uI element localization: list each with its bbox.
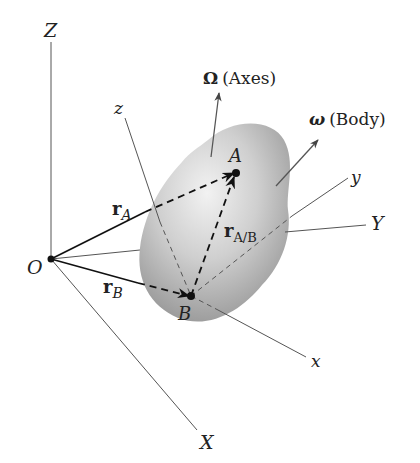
- origin-point: [48, 256, 55, 263]
- y-axis-outside: [292, 178, 348, 216]
- rB-vector-solid: [51, 259, 138, 283]
- point-B: [187, 292, 195, 300]
- rA-label: rA: [112, 198, 132, 223]
- y-label: y: [350, 167, 361, 187]
- B-label: B: [177, 303, 191, 324]
- point-A: [232, 169, 240, 177]
- x-axis-outside: [218, 310, 306, 357]
- omega-axes-label: Ω(Axes): [203, 68, 276, 88]
- z-label: z: [113, 98, 124, 118]
- Z-label: Z: [43, 19, 58, 41]
- kinematics-diagram: Z z y Y x X O A B rA rB rA/B Ω(Axes) ω(B…: [0, 0, 420, 463]
- A-label: A: [227, 145, 242, 166]
- X-label: X: [198, 431, 215, 453]
- Y-axis: [285, 225, 366, 232]
- omega-body-label: ω(Body): [309, 109, 386, 129]
- O-label: O: [27, 256, 43, 278]
- x-label: x: [311, 351, 321, 371]
- rB-label: rB: [103, 276, 123, 301]
- Y-label: Y: [371, 212, 386, 234]
- rigid-body: [139, 124, 290, 322]
